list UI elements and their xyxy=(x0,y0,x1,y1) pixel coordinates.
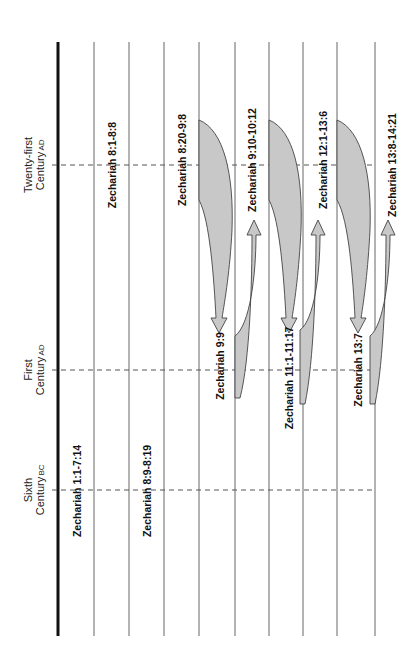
passage-label: Zechariah 13:7 xyxy=(352,333,364,407)
passage-label: Zechariah 9:9 xyxy=(214,332,226,400)
passage-label: Zechariah 11:1-11:17 xyxy=(283,326,295,429)
passage-label: Zechariah 8:9-8:19 xyxy=(141,445,153,537)
era-name: Sixth xyxy=(22,478,34,502)
down-arrow-8-20-to-9-9 xyxy=(199,120,232,333)
passage-label: Zechariah 1:1-7:14 xyxy=(71,445,83,537)
era-century: Century xyxy=(34,356,46,395)
passage-label: Zechariah 8:20-9:8 xyxy=(176,114,188,206)
passage-label: Zechariah 12:1-13:6 xyxy=(317,111,329,209)
era-suffix: AD xyxy=(37,139,46,150)
era-suffix: BC xyxy=(37,464,46,475)
era-label-first: First Century AD xyxy=(22,344,46,395)
passage-label: Zechariah 9:10-10:12 xyxy=(246,108,258,212)
era-label-sixth: Sixth Century BC xyxy=(22,464,46,515)
down-arrow-12-1-to-13-7 xyxy=(337,120,370,333)
up-arrow-13-7-to-13-8 xyxy=(370,220,395,404)
era-century: Century xyxy=(34,151,46,190)
passage-label: Zechariah 13:8-14:21 xyxy=(386,113,398,217)
era-century: Century xyxy=(34,476,46,515)
zechariah-timeline-diagram: Twenty-first Century AD First Century AD… xyxy=(0,0,420,664)
passage-label: Zechariah 8:1-8:8 xyxy=(106,122,118,209)
up-arrow-11-1-to-12-1 xyxy=(300,220,325,404)
era-name: First xyxy=(22,359,34,380)
down-arrow-9-10-to-11-1 xyxy=(269,120,301,333)
flow-arrows xyxy=(199,120,395,404)
era-name: Twenty-first xyxy=(22,137,34,193)
up-arrow-9-9-to-9-10 xyxy=(235,220,261,398)
era-suffix: AD xyxy=(37,344,46,355)
era-label-twenty-first: Twenty-first Century AD xyxy=(22,137,46,193)
